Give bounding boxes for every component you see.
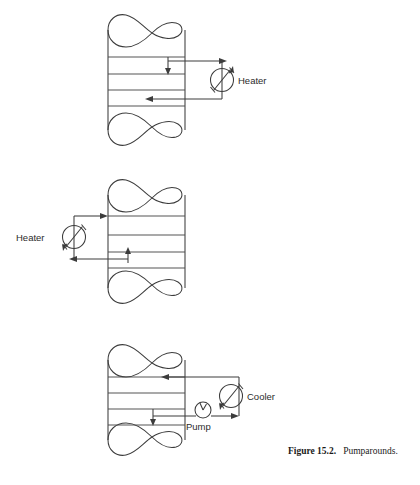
diagram-pumparound-bottom: Cooler Pump [108,345,275,456]
pump-discharge-bottom [211,377,239,419]
figure-caption: Figure 15.2.Pumparounds. [288,446,398,456]
figure-caption-title: Pumparounds. [343,446,398,456]
heater-label-middle: Heater [16,232,45,243]
pump-symbol-bottom [195,402,211,418]
pumparound-loop-middle [74,213,108,259]
figure-caption-label: Figure 15.2. [288,446,336,456]
drawoff-line-top [165,57,227,75]
column-shell-middle [108,180,185,304]
drawoff-line-middle [69,247,131,263]
pumparound-figure-svg: Heater [0,0,420,485]
diagram-pumparound-top: Heater [108,15,267,146]
cooler-return-bottom [161,374,239,380]
heater-label-top: Heater [238,75,267,86]
column-shell-bottom [108,345,185,456]
column-shell-top [108,15,185,146]
trays-bottom [108,377,185,425]
pump-label-bottom: Pump [186,421,211,432]
cooler-label-bottom: Cooler [247,391,275,402]
trays-middle [108,216,185,268]
diagram-pumparound-middle: Heater [16,180,185,304]
figure-page: Heater [0,0,420,485]
